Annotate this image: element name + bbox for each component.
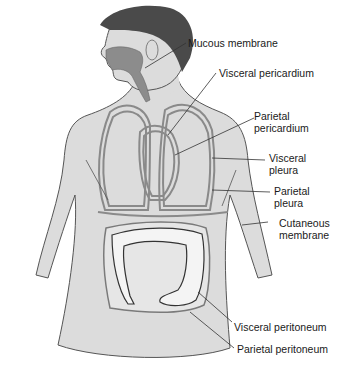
label-parietal-pericardium: Parietal pericardium: [254, 110, 309, 134]
label-visceral-pericardium: Visceral pericardium: [219, 67, 314, 79]
label-mucous-membrane: Mucous membrane: [188, 37, 278, 49]
ear: [146, 40, 158, 60]
label-parietal-pleura: Parietal pleura: [274, 185, 310, 209]
label-parietal-peritoneum: Parietal peritoneum: [237, 343, 328, 355]
label-cutaneous-membrane: Cutaneous membrane: [279, 217, 330, 241]
label-visceral-pleura: Visceral pleura: [269, 152, 306, 176]
label-visceral-peritoneum: Visceral peritoneum: [234, 321, 327, 333]
